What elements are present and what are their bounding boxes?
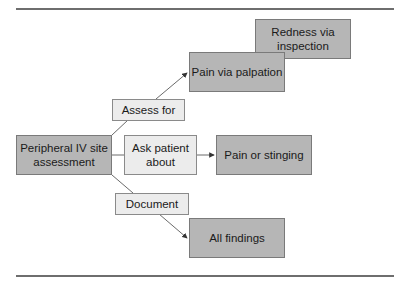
edge-label: Assess for (122, 103, 176, 117)
document-edge-label: Document (115, 193, 189, 215)
ask-patient-about-edge-label: Ask patient about (124, 135, 197, 175)
edge-label: Document (126, 197, 178, 211)
node-label-line1: Peripheral IV site (20, 141, 108, 155)
node-label: All findings (209, 231, 265, 245)
edge-label-line1: Ask patient (132, 141, 189, 155)
node-label: Pain or stinging (224, 148, 303, 162)
node-label-line2: inspection (271, 39, 334, 53)
pain-via-palpation-node: Pain via palpation (189, 52, 285, 92)
peripheral-iv-site-assessment-node: Peripheral IV site assessment (16, 135, 112, 175)
all-findings-node: All findings (189, 218, 285, 258)
edge-label-line2: about (132, 155, 189, 169)
node-label: Pain via palpation (192, 65, 283, 79)
pain-or-stinging-node: Pain or stinging (216, 135, 312, 175)
node-label-line1: Redness via (271, 25, 334, 39)
node-label-line2: assessment (20, 155, 108, 169)
assess-for-edge-label: Assess for (112, 99, 185, 121)
bottom-rule (16, 275, 394, 277)
